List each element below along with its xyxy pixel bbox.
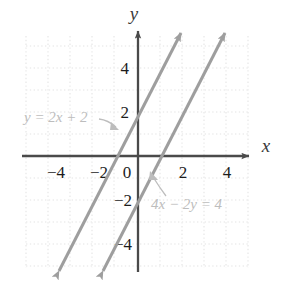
x-tick-minus-4: −4: [47, 163, 66, 182]
x-tick-4: 4: [223, 163, 232, 182]
origin-label: 0: [123, 163, 132, 182]
equation-label-line2: 4x − 2y = 4: [151, 196, 223, 212]
y-axis-label: y: [128, 3, 139, 24]
y-tick-minus-2: −2: [114, 191, 132, 210]
y-tick-2: 2: [121, 103, 130, 122]
x-tick-2: 2: [179, 163, 188, 182]
leader-arrowhead-line1: [110, 122, 119, 130]
equation-label-line1: y = 2x + 2: [22, 109, 88, 125]
x-axis-label: x: [261, 135, 271, 156]
y-tick-4: 4: [121, 59, 130, 78]
coordinate-plane: y x −4 −2 0 2 4 4 2 −2 −4 y = 2x + 2 4x …: [0, 0, 285, 282]
graph-figure: y x −4 −2 0 2 4 4 2 −2 −4 y = 2x + 2 4x …: [0, 0, 285, 282]
